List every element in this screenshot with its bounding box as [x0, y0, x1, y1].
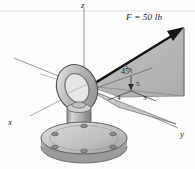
bolt-hole — [110, 145, 117, 149]
slope-vertical-label: 3 — [143, 95, 147, 102]
mechanics-figure: z x y F = 50 lb 45° 5 4 3 — [0, 0, 195, 169]
figure-canvas — [0, 0, 195, 169]
slope-horizontal-label: 4 — [117, 95, 121, 102]
z-axis-label: z — [81, 1, 85, 10]
angle-label: 45° — [121, 68, 132, 76]
shaft-collar — [72, 102, 86, 108]
base-flange — [41, 122, 127, 163]
bolt-hole — [52, 145, 59, 149]
x-axis-label: x — [8, 118, 12, 127]
slope-hypotenuse-label: 5 — [136, 81, 140, 88]
bolt-hole — [52, 132, 59, 136]
force-label: F = 50 lb — [126, 13, 162, 22]
bolt-hole — [110, 132, 117, 136]
bolt-hole — [81, 149, 88, 153]
bolt-hole — [81, 124, 88, 128]
y-axis-label: y — [180, 130, 184, 139]
